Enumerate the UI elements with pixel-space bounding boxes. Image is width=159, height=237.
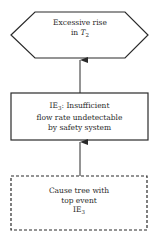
subscript: 2 bbox=[86, 31, 90, 37]
ie3-label: IE3: Insufficient flow rate undetectable… bbox=[11, 101, 148, 132]
subscript: 3 bbox=[81, 209, 85, 215]
ie3-line-1: IE3: Insufficient bbox=[11, 101, 148, 113]
top-event-line-2-prefix: in bbox=[71, 28, 81, 37]
cause-tree-label: Cause tree with top event IE3 bbox=[11, 186, 147, 217]
top-event-line-2: in T2 bbox=[35, 28, 125, 40]
ie3-rest: : Insufficient bbox=[61, 101, 109, 110]
ie3-line-3: by safety system bbox=[11, 123, 148, 133]
ie3-line-2: flow rate undetectable bbox=[11, 113, 148, 123]
top-event-line-1: Excessive rise bbox=[35, 18, 125, 28]
top-event-label: Excessive rise in T2 bbox=[35, 18, 125, 40]
cause-tree-line-2: top event bbox=[11, 196, 147, 206]
cause-tree-line-3: IE3 bbox=[11, 205, 147, 217]
cause-tree-line-1: Cause tree with bbox=[11, 186, 147, 196]
ie3-prefix: IE bbox=[50, 101, 58, 110]
